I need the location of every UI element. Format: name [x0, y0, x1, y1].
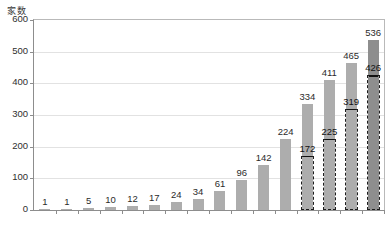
bar-value-label: 411 [313, 68, 345, 78]
bar [214, 191, 225, 210]
bar-overlay-cap [369, 75, 378, 77]
x-axis-tick [209, 210, 210, 214]
x-axis-tick [78, 210, 79, 214]
x-axis-tick [297, 210, 298, 214]
bar-value-label: 142 [248, 153, 280, 163]
bar-overlay-cap [347, 109, 356, 111]
bar-value-label: 61 [204, 179, 236, 189]
bar-overlay-cap [325, 139, 334, 141]
x-axis-tick [275, 210, 276, 214]
bar [171, 202, 182, 210]
bar-overlay-dashed [323, 139, 336, 210]
x-axis-tick [100, 210, 101, 214]
y-axis-tick [30, 115, 34, 116]
y-axis-label: 600 [2, 14, 28, 24]
x-axis-tick [187, 210, 188, 214]
bar-overlay-value-label: 319 [335, 97, 367, 107]
bar-overlay-dashed [301, 156, 314, 210]
bar-chart: 家数 6005004003002001000 11510121724346196… [0, 0, 389, 226]
bar-value-label: 334 [291, 92, 323, 102]
y-axis-labels: 6005004003002001000 [0, 19, 28, 211]
bar-value-label: 96 [226, 168, 258, 178]
bar [83, 208, 94, 210]
bar [39, 209, 50, 210]
x-axis-tick [253, 210, 254, 214]
y-axis-tick [30, 83, 34, 84]
bar-value-label: 224 [270, 127, 302, 137]
y-axis-tick [30, 52, 34, 53]
y-axis-tick [30, 147, 34, 148]
bar [105, 207, 116, 210]
gridline [34, 52, 384, 53]
bar [280, 139, 291, 210]
y-axis-tick [30, 210, 34, 211]
x-axis-tick [143, 210, 144, 214]
x-axis-tick [231, 210, 232, 214]
bar [61, 209, 72, 210]
bar [236, 180, 247, 210]
y-axis-label: 0 [2, 204, 28, 214]
bar-value-label: 34 [182, 187, 214, 197]
y-axis-label: 400 [2, 77, 28, 87]
y-axis-tick [30, 20, 34, 21]
bar-overlay-value-label: 426 [357, 63, 389, 73]
x-axis-tick [165, 210, 166, 214]
x-axis-tick [340, 210, 341, 214]
bar [258, 165, 269, 210]
y-axis-label: 300 [2, 109, 28, 119]
plot-area: 1151012172434619614222433417241122546531… [33, 19, 385, 211]
bar [193, 199, 204, 210]
y-axis-tick [30, 178, 34, 179]
x-axis-tick [318, 210, 319, 214]
bar-overlay-value-label: 172 [291, 144, 323, 154]
bar-value-label: 465 [335, 51, 367, 61]
bar [127, 206, 138, 210]
x-axis-tick [56, 210, 57, 214]
x-axis-tick [384, 210, 385, 214]
y-axis-label: 500 [2, 46, 28, 56]
bar-overlay-dashed [345, 109, 358, 210]
bar [149, 205, 160, 210]
bar-overlay-cap [303, 156, 312, 158]
bar-overlay-value-label: 225 [313, 127, 345, 137]
bar-value-label: 536 [357, 28, 389, 38]
y-axis-label: 200 [2, 141, 28, 151]
x-axis-tick [362, 210, 363, 214]
y-axis-label: 100 [2, 172, 28, 182]
x-axis-tick [122, 210, 123, 214]
bar-overlay-dashed [367, 75, 380, 210]
